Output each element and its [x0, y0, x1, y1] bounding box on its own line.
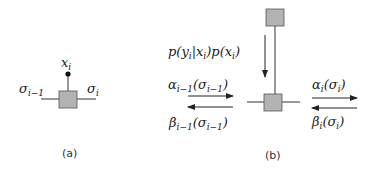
panel-b: p(yi|xi)p(xi) αi−1(σi−1) βi−1(σi−1) αi(σ…: [168, 9, 357, 162]
panel-a-caption: (a): [62, 147, 77, 160]
likelihood-label: p(yi|xi)p(xi): [168, 44, 240, 61]
factor-graph-diagram: xi σi−1 σi (a) p(yi|xi)p(xi) αi−1(σi−1) …: [0, 0, 375, 174]
beta-cur-label: βi(σi): [311, 114, 344, 131]
beta-prev-label: βi−1(σi−1): [168, 115, 228, 132]
alpha-prev-label: αi−1(σi−1): [168, 77, 228, 94]
factor-node-icon: [264, 94, 282, 111]
panel-a: xi σi−1 σi (a): [19, 55, 99, 160]
factor-node-icon: [59, 91, 77, 108]
observation-label: xi: [61, 55, 71, 72]
prior-factor-node-icon: [266, 9, 284, 26]
observation-node-icon: [65, 71, 70, 76]
alpha-cur-label: αi(σi): [312, 77, 346, 94]
left-state-label: σi−1: [19, 81, 44, 98]
panel-b-caption: (b): [265, 149, 281, 162]
right-state-label: σi: [87, 81, 99, 98]
